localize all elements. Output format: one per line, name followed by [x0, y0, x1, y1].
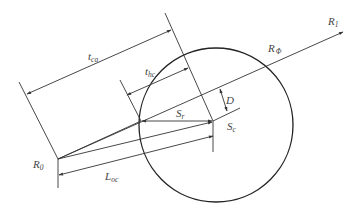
label-thc: thc	[145, 65, 156, 79]
tca-dimension-line	[27, 30, 171, 94]
label-r0: R0	[32, 158, 44, 172]
label-r1: R1	[327, 15, 338, 29]
line-r0-sr	[58, 121, 141, 159]
label-rphi: RΦ	[267, 42, 282, 56]
label-loc: Loc	[104, 170, 119, 184]
line-r0-r1	[58, 32, 343, 159]
label-d: D	[225, 94, 234, 106]
line-r0-sc	[58, 122, 212, 159]
tca-extension-right	[165, 13, 213, 121]
label-sr: Sr	[176, 107, 185, 121]
thc-extension-left	[120, 80, 141, 121]
tca-extension-left	[19, 82, 58, 159]
label-sc: Sc	[227, 120, 237, 134]
diagram-canvas: tca thc R1 RΦ D Sr Sc R0 Loc	[0, 0, 361, 211]
circle-region	[139, 48, 293, 202]
label-tca: tca	[88, 50, 98, 64]
thc-dimension-line	[127, 68, 188, 95]
loc-dimension-line	[59, 136, 213, 175]
